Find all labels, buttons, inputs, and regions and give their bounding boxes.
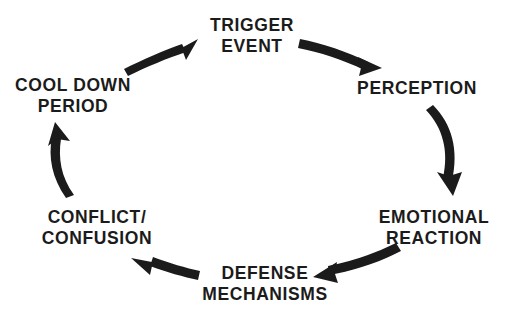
node-cool-down-period-line1: COOL DOWN — [15, 75, 131, 96]
node-cool-down-period-line2: PERIOD — [15, 95, 131, 116]
node-trigger-event: TRIGGER EVENT — [210, 15, 294, 56]
node-trigger-event-line2: EVENT — [210, 35, 294, 56]
node-conflict-confusion: CONFLICT/ CONFUSION — [42, 207, 152, 248]
cycle-diagram: TRIGGER EVENT PERCEPTION EMOTIONAL REACT… — [0, 0, 514, 321]
node-defense-mechanisms-line1: DEFENSE — [202, 263, 328, 284]
node-defense-mechanisms: DEFENSE MECHANISMS — [202, 263, 328, 304]
node-conflict-confusion-line1: CONFLICT/ — [42, 207, 152, 228]
node-perception: PERCEPTION — [357, 78, 477, 99]
arrow-trigger-to-perception — [298, 39, 382, 76]
node-perception-line1: PERCEPTION — [357, 78, 477, 99]
arrow-defense-to-conflict — [131, 257, 200, 280]
arrow-conflict-to-cool-down — [48, 122, 74, 198]
node-trigger-event-line1: TRIGGER — [210, 15, 294, 36]
arrow-cool-down-to-trigger — [124, 39, 198, 76]
node-emotional-reaction-line2: REACTION — [379, 227, 489, 248]
node-cool-down-period: COOL DOWN PERIOD — [15, 75, 131, 116]
node-conflict-confusion-line2: CONFUSION — [42, 227, 152, 248]
node-emotional-reaction-line1: EMOTIONAL — [379, 207, 489, 228]
arrow-perception-to-emotional — [426, 105, 462, 196]
node-emotional-reaction: EMOTIONAL REACTION — [379, 207, 489, 248]
node-defense-mechanisms-line2: MECHANISMS — [202, 283, 328, 304]
